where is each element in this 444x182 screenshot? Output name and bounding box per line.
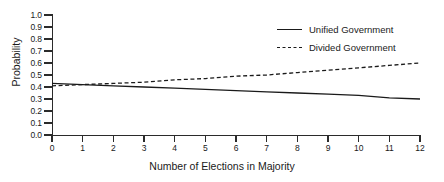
- legend-line-solid-icon: [277, 24, 302, 34]
- probability-line-chart: 0.00.10.20.30.40.50.60.70.80.91.0 012345…: [0, 0, 444, 182]
- series-line-divided-government: [52, 63, 420, 86]
- y-axis-title: Probability: [10, 22, 22, 102]
- legend-item-divided-government: Divided Government: [277, 38, 437, 56]
- legend-label-divided-government: Divided Government: [309, 42, 396, 53]
- x-axis-title: Number of Elections in Majority: [0, 160, 444, 172]
- legend-item-unified-government: Unified Government: [277, 20, 437, 38]
- series-line-unified-government: [52, 83, 420, 99]
- legend-line-dashed-icon: [277, 42, 302, 52]
- legend-label-unified-government: Unified Government: [309, 24, 393, 35]
- chart-legend: Unified Government Divided Government: [277, 20, 437, 56]
